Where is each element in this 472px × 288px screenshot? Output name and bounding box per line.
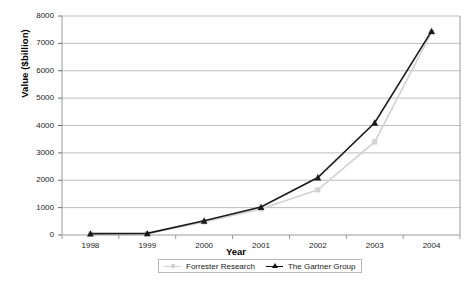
chart-container: Value ($billion) Year 010002000300040005…: [0, 0, 472, 288]
legend-swatch-forrester-research: [164, 262, 181, 271]
chart-legend: Forrester Research The Gartner Group: [158, 259, 362, 273]
data-point-marker: [372, 139, 377, 144]
data-point-marker: [315, 187, 320, 192]
legend-item-forrester-research: Forrester Research: [164, 262, 255, 271]
legend-swatch-the-gartner-group: [266, 262, 283, 271]
plot-area: [0, 0, 472, 288]
legend-label-the-gartner-group: The Gartner Group: [288, 262, 356, 271]
legend-item-the-gartner-group: The Gartner Group: [266, 262, 356, 271]
legend-label-forrester-research: Forrester Research: [186, 262, 255, 271]
